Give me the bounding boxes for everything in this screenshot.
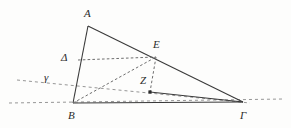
point-marker-Z [148,90,151,93]
geometry-canvas [0,0,291,128]
construction-lines-group [9,80,284,103]
segment-A-Gamma [88,26,243,102]
segment-Delta-E [78,57,156,60]
geometry-figure: A B Γ Δ E Z γ [0,0,291,128]
segment-E-Z [150,57,156,92]
vertex-label-A: A [84,8,91,19]
vertex-label-Z: Z [140,75,146,86]
point-markers-group [148,90,151,93]
vertex-label-delta: Δ [61,52,68,63]
vertex-label-E: E [153,39,160,50]
vertex-label-B: B [68,110,75,121]
oblique-line-gamma [17,80,250,103]
segment-B-Gamma [73,102,243,103]
line-label-gamma: γ [44,72,49,83]
segment-A-B [73,26,88,103]
vertex-label-gamma-uc: Γ [240,110,246,121]
